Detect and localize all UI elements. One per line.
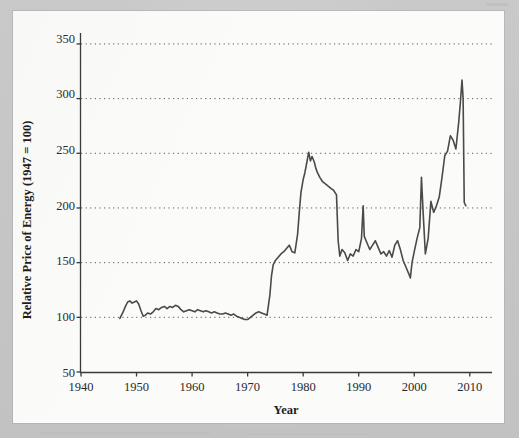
- y-tick-labels: 350 300 250 200 150 100 50: [56, 32, 75, 380]
- x-tick-1950: 1950: [124, 380, 149, 394]
- x-tick-1990: 1990: [346, 380, 371, 394]
- energy-price-line: [120, 80, 466, 319]
- y-tick-200: 200: [56, 199, 75, 213]
- plot-area: [77, 33, 493, 377]
- x-tick-1980: 1980: [291, 380, 316, 394]
- figure-panel: Relative Price of Energy (1947 = 100) 35…: [13, 11, 504, 423]
- y-tick-300: 300: [56, 87, 75, 101]
- x-tick-labels: 19401950196019701980199020002010: [69, 380, 483, 394]
- x-tick-2000: 2000: [402, 380, 427, 394]
- gridlines: [81, 44, 492, 317]
- x-axis-title: Year: [274, 403, 299, 417]
- x-tick-1970: 1970: [235, 380, 260, 394]
- chart-canvas: Relative Price of Energy (1947 = 100) 35…: [13, 11, 504, 423]
- x-tick-2010: 2010: [457, 380, 482, 394]
- page-background: Relative Price of Energy (1947 = 100) 35…: [0, 0, 519, 438]
- y-tick-350: 350: [56, 32, 75, 46]
- energy-price-chart: Relative Price of Energy (1947 = 100) 35…: [13, 11, 504, 423]
- y-tick-50: 50: [63, 366, 76, 380]
- y-tick-150: 150: [56, 254, 75, 268]
- y-tick-250: 250: [56, 143, 75, 157]
- y-tick-100: 100: [56, 310, 75, 324]
- y-axis-title: Relative Price of Energy (1947 = 100): [20, 121, 34, 320]
- x-tick-1940: 1940: [69, 380, 94, 394]
- x-tick-1960: 1960: [180, 380, 205, 394]
